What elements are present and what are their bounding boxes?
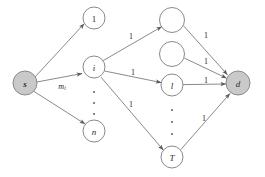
- node-destination-d[interactable]: d: [226, 71, 250, 95]
- edge-s-to-1: [35, 24, 84, 77]
- edge-weight-v2-d: 1: [204, 57, 208, 66]
- node-label-n: n: [92, 127, 97, 137]
- node-label-d: d: [236, 79, 241, 89]
- edge-weight-s-i: mi: [58, 82, 66, 92]
- flow-network-diagram: mi 1 1 1 1 1 1 1 s 1: [0, 0, 265, 177]
- edge-weight-i-T: 1: [129, 100, 133, 109]
- ellipsis-dot: [171, 121, 173, 123]
- node-unlabeled-second[interactable]: [160, 42, 185, 67]
- edge-s-to-n: [34, 91, 85, 124]
- ellipsis-right: [171, 109, 173, 135]
- ellipsis-dot: [93, 113, 95, 115]
- node-circle-unlabeled-second[interactable]: [160, 42, 185, 67]
- ellipsis-dot: [171, 109, 173, 111]
- edge-weight-l-d: 1: [204, 76, 208, 85]
- ellipsis-dot: [93, 102, 95, 104]
- node-label-1: 1: [92, 14, 97, 24]
- node-n[interactable]: n: [83, 120, 105, 142]
- node-label-s: s: [22, 79, 27, 89]
- node-circle-unlabeled-top[interactable]: [160, 8, 185, 33]
- edge-i-to-T: [101, 77, 163, 150]
- ellipsis-dot: [171, 133, 173, 135]
- ellipsis-dot: [93, 91, 95, 93]
- node-1[interactable]: 1: [83, 7, 105, 29]
- edge-weight-T-d: 1: [202, 114, 206, 123]
- node-l[interactable]: l: [161, 74, 183, 96]
- node-source-s[interactable]: s: [13, 71, 37, 95]
- edge-weight-i-v1: 1: [129, 32, 133, 41]
- edge-weight-i-l: 1: [131, 68, 135, 77]
- ellipsis-left: [93, 91, 95, 115]
- node-unlabeled-top[interactable]: [160, 8, 185, 33]
- edge-weight-v1-d: 1: [204, 31, 208, 40]
- node-i[interactable]: i: [83, 56, 105, 78]
- node-T[interactable]: T: [161, 146, 183, 168]
- diagram-canvas: mi 1 1 1 1 1 1 1 s 1: [0, 0, 265, 177]
